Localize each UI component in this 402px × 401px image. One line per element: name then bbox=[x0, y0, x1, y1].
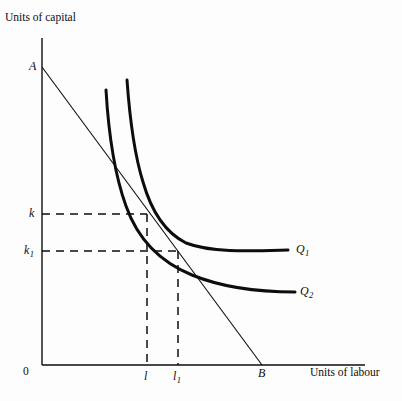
isoquant-q1-label: Q1 bbox=[296, 243, 309, 255]
point-a-label: A bbox=[29, 60, 36, 72]
y-tick-k-base: k bbox=[29, 206, 34, 220]
y-tick-label-k1: k1 bbox=[24, 244, 34, 256]
q2-subscript: 2 bbox=[309, 290, 313, 300]
isoquant-isocost-figure: Units of capital Units of labour 0 A B k… bbox=[0, 0, 402, 401]
q1-base: Q bbox=[296, 242, 305, 256]
isoquant-q1-curve bbox=[127, 80, 288, 251]
y-tick-k1-base: k bbox=[24, 243, 29, 257]
diagram-canvas bbox=[0, 0, 402, 401]
origin-label: 0 bbox=[23, 366, 29, 378]
q1-subscript: 1 bbox=[305, 248, 309, 258]
x-tick-l1-subscript: 1 bbox=[177, 375, 181, 385]
point-b-label: B bbox=[258, 367, 265, 379]
x-axis-title: Units of labour bbox=[310, 367, 380, 379]
x-tick-l1-base: l bbox=[173, 369, 176, 383]
isoquant-q2-curve bbox=[106, 90, 295, 292]
q2-base: Q bbox=[300, 284, 309, 298]
y-axis-title: Units of capital bbox=[5, 12, 76, 24]
x-tick-label-l: l bbox=[144, 370, 147, 382]
x-tick-label-l1: l1 bbox=[173, 370, 181, 382]
y-tick-label-k: k bbox=[29, 207, 34, 219]
y-tick-k1-subscript: 1 bbox=[30, 249, 34, 259]
x-tick-l-base: l bbox=[144, 369, 147, 383]
isocost-line-ab bbox=[42, 67, 262, 365]
isoquant-q2-label: Q2 bbox=[300, 285, 313, 297]
